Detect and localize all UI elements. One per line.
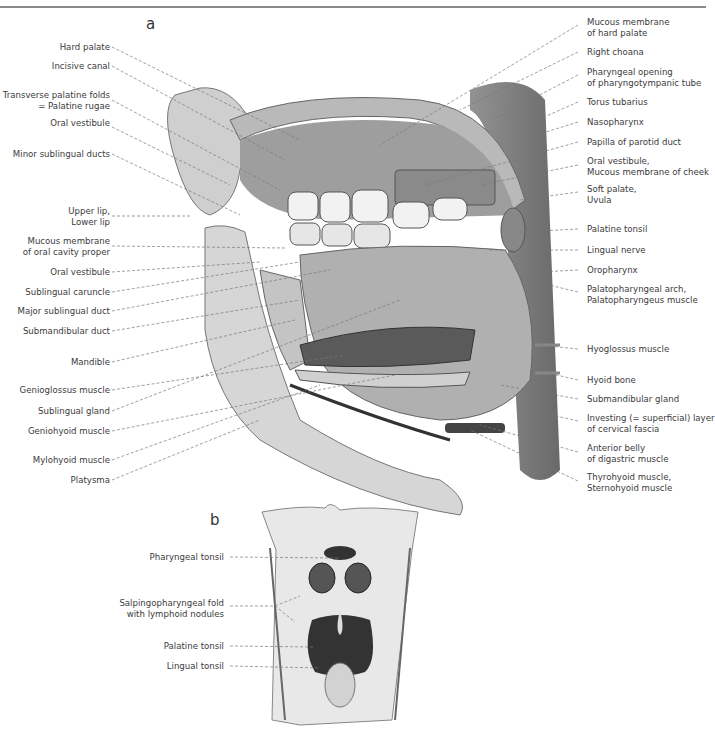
label-mandible: Mandible [71,357,110,368]
label-pharyngeal-opening: Pharyngeal openingof pharyngotympanic tu… [587,67,701,88]
label-oral-vestibule-lower: Oral vestibule [50,267,110,278]
label-investing-layer-cervical-fascia: Investing (= superficial) layerof cervic… [587,413,715,434]
label-nasopharynx: Nasopharynx [587,117,644,128]
label-geniohyoid-muscle: Geniohyoid muscle [28,426,110,437]
label-mucous-membrane-hard-palate: Mucous membraneof hard palate [587,17,670,38]
label-hyoid-bone: Hyoid bone [587,375,636,386]
label-papilla-parotid-duct: Papilla of parotid duct [587,137,681,148]
label-oral-vestibule-upper: Oral vestibule [50,118,110,129]
label-sublingual-gland: Sublingual gland [38,406,110,417]
label-minor-sublingual-ducts: Minor sublingual ducts [13,149,110,160]
sagittal-section-a [168,82,561,515]
label-mucous-membrane-oral-cavity: Mucous membraneof oral cavity proper [23,236,110,257]
label-hard-palate: Hard palate [60,42,110,53]
label-genioglossus-muscle: Genioglossus muscle [20,385,110,396]
label-soft-palate-uvula: Soft palate,Uvula [587,184,636,205]
label-oropharynx: Oropharynx [587,265,638,276]
label-anterior-belly-digastric: Anterior bellyof digastric muscle [587,443,669,464]
label-right-choana: Right choana [587,47,644,58]
label-lingual-tonsil: Lingual tonsil [167,661,224,672]
label-sublingual-caruncle: Sublingual caruncle [25,287,110,298]
label-lingual-nerve: Lingual nerve [587,245,646,256]
label-torus-tubarius: Torus tubarius [587,97,648,108]
label-incisive-canal: Incisive canal [52,61,110,72]
label-thyrohyoid-sternohyoid: Thyrohyoid muscle,Sternohyoid muscle [587,472,672,493]
label-palatopharyngeal-arch: Palatopharyngeal arch,Palatopharyngeus m… [587,284,698,305]
label-hyoglossus-muscle: Hyoglossus muscle [587,344,669,355]
label-pharyngeal-tonsil: Pharyngeal tonsil [150,552,224,563]
label-submandibular-duct: Submandibular duct [23,326,110,337]
label-platysma: Platysma [71,475,110,486]
label-major-sublingual-duct: Major sublingual duct [18,306,110,317]
label-palatine-tonsil-b: Palatine tonsil [164,641,224,652]
label-mylohyoid-muscle: Mylohyoid muscle [33,455,110,466]
label-submandibular-gland: Submandibular gland [587,394,679,405]
label-salpingopharyngeal-fold: Salpingopharyngeal foldwith lymphoid nod… [119,598,224,619]
label-palatine-tonsil-a: Palatine tonsil [587,224,647,235]
label-transverse-palatine-folds: Transverse palatine folds= Palatine ruga… [3,90,110,111]
posterior-view-b [262,504,418,725]
label-upper-lower-lip: Upper lip,Lower lip [68,206,110,227]
label-oral-vestibule-cheek: Oral vestibule,Mucous membrane of cheek [587,156,709,177]
